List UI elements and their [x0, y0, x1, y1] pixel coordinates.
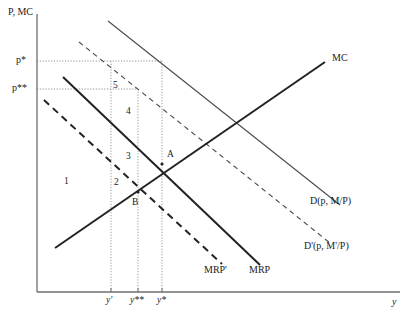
point-b-marker: [136, 190, 139, 193]
curve-label-demand-prime: D'(p, M'/P): [304, 241, 349, 251]
mc-curve: [55, 62, 325, 248]
tick-label-ystar: y*: [157, 296, 166, 306]
curve-label-demand: D(p, M/P): [310, 196, 351, 206]
point-label-b: B: [132, 198, 138, 208]
reference-lines: [37, 61, 162, 292]
point-label-a: A: [167, 150, 174, 160]
mrp-curve: [63, 77, 260, 265]
tick-label-ydoublestar: y**: [130, 296, 144, 306]
price-label-pdoublestar: p**: [12, 83, 27, 93]
mrp-prime-curve: [44, 100, 222, 264]
region-label-3: 3: [126, 152, 131, 162]
y-axis-label: P, MC: [8, 7, 33, 17]
curve-label-mrp-prime: MRP': [204, 265, 227, 275]
demand-curve: [108, 21, 340, 205]
tick-label-yprime: y': [106, 296, 112, 306]
region-label-2: 2: [114, 178, 119, 188]
curve-label-mc: MC: [332, 53, 348, 63]
x-axis-label: y: [392, 297, 396, 307]
price-label-pstar: p*: [16, 55, 26, 65]
region-label-4: 4: [126, 107, 131, 117]
point-a-marker: [160, 162, 163, 165]
curve-label-mrp: MRP: [249, 265, 270, 275]
region-label-5: 5: [113, 81, 118, 91]
region-label-1: 1: [64, 177, 69, 187]
